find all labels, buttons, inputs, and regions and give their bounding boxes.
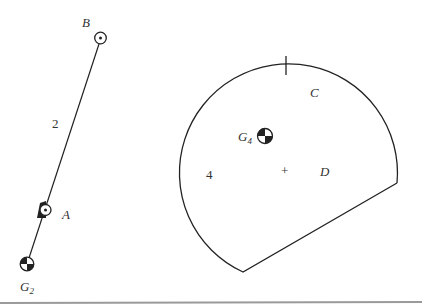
mechanism-diagram: B 2 A G2 G4 C	[0, 0, 422, 308]
bottom-divider	[0, 302, 422, 303]
label-c: C	[310, 85, 319, 100]
pin-b-icon	[95, 32, 107, 44]
link-4: G4 C 4 + D	[179, 56, 397, 272]
pin-a-icon	[37, 201, 51, 218]
center-of-gravity-g4-icon	[258, 129, 273, 144]
label-g2: G2	[20, 279, 34, 296]
center-mark: +	[281, 163, 288, 178]
link-2-bar	[29, 44, 99, 258]
label-d: D	[319, 164, 330, 179]
link-2: B 2 A G2	[20, 15, 106, 296]
label-link-2: 2	[52, 116, 59, 131]
label-link-4: 4	[206, 167, 213, 182]
label-g4: G4	[238, 129, 252, 146]
center-of-gravity-g2-icon	[20, 257, 34, 271]
label-b: B	[82, 15, 90, 30]
label-a: A	[61, 207, 70, 222]
